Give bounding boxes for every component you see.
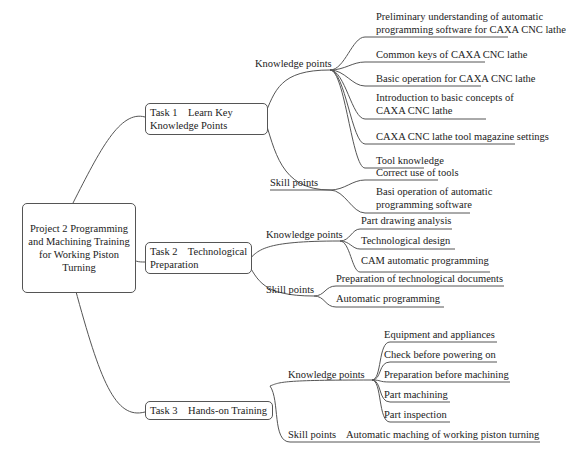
task-1-skill-item-1[interactable]: Correct use of tools	[376, 166, 459, 179]
task-1-knowledge-item-2[interactable]: Common keys of CAXA CNC lathe	[376, 48, 527, 61]
task-1-skill-label: Skill points	[270, 176, 318, 189]
task-1-knowledge-item-3[interactable]: Basic operation for CAXA CNC lathe	[376, 72, 536, 85]
task-2-knowledge-item-2[interactable]: Technological design	[361, 234, 450, 247]
task-3-skill-label: Skill points	[288, 428, 336, 441]
task-1-knowledge-item-1[interactable]: Preliminary understanding of automatic p…	[376, 10, 566, 36]
task-3-knowledge-item-5[interactable]: Part inspection	[384, 408, 447, 421]
task-1-knowledge-item-5[interactable]: CAXA CNC lathe tool magazine settings	[376, 130, 549, 143]
task-3-label: Task 3 Hands-on Training	[150, 404, 268, 417]
task-3-knowledge-item-4[interactable]: Part machining	[384, 388, 448, 401]
task-3-node[interactable]: Task 3 Hands-on Training	[145, 401, 273, 420]
task-3-knowledge-item-2[interactable]: Check before powering on	[384, 348, 496, 361]
task-2-label-line1: Task 2 Technological	[150, 245, 247, 258]
task-2-knowledge-item-3[interactable]: CAM automatic programming	[361, 254, 489, 267]
task-2-knowledge-label: Knowledge points	[266, 228, 343, 241]
task-3-knowledge-item-1[interactable]: Equipment and appliances	[384, 328, 495, 341]
root-node[interactable]: Project 2 Programming and Machining Trai…	[22, 203, 136, 293]
task-3-skill-item-1[interactable]: Automatic maching of working piston turn…	[346, 428, 539, 441]
task-1-label-line2: Knowledge Points	[150, 119, 263, 132]
task-2-skill-item-2[interactable]: Automatic programming	[336, 292, 440, 305]
task-1-node[interactable]: Task 1 Learn Key Knowledge Points	[145, 103, 268, 135]
task-1-label-line1: Task 1 Learn Key	[150, 106, 263, 119]
task-3-knowledge-label: Knowledge points	[288, 368, 365, 381]
task-2-node[interactable]: Task 2 Technological Preparation	[145, 242, 252, 274]
task-2-skill-item-1[interactable]: Preparation of technological documents	[336, 272, 503, 285]
task-1-knowledge-item-4[interactable]: Introduction to basic concepts of CAXA C…	[376, 91, 514, 117]
task-2-label-line2: Preparation	[150, 258, 247, 271]
root-label: Project 2 Programming and Machining Trai…	[27, 222, 131, 274]
task-3-knowledge-item-3[interactable]: Preparation before machining	[384, 368, 509, 381]
task-1-knowledge-label: Knowledge points	[255, 57, 332, 70]
task-2-skill-label: Skill points	[266, 283, 314, 296]
task-1-skill-item-2[interactable]: Basi operation of automatic programming …	[376, 185, 492, 211]
task-2-knowledge-item-1[interactable]: Part drawing analysis	[361, 214, 451, 227]
